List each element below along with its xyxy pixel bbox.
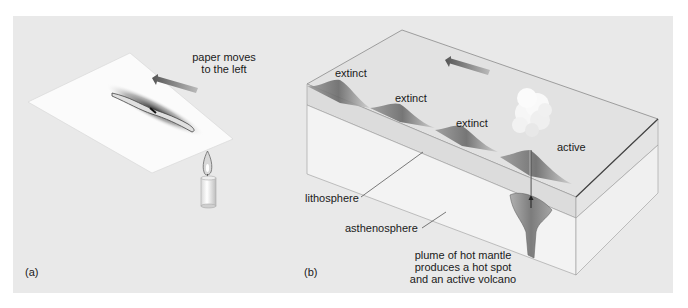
paper-moves-caption: paper moves to the left: [169, 51, 279, 75]
diagram-art: [0, 0, 688, 308]
caption-line: produces a hot spot: [408, 261, 518, 273]
extinct-volcano-label-1: extinct: [335, 67, 367, 79]
caption-line: plume of hot mantle: [408, 249, 518, 261]
asthenosphere-label: asthenosphere: [345, 222, 418, 234]
panel-a-label: (a): [25, 266, 38, 278]
panel-b-label: (b): [304, 266, 317, 278]
active-volcano-label: active: [557, 141, 586, 153]
plume-caption: plume of hot mantle produces a hot spot …: [408, 249, 518, 285]
caption-line: to the left: [169, 63, 279, 75]
extinct-volcano-label-2: extinct: [395, 92, 427, 104]
candle-icon: [201, 151, 216, 208]
caption-line: and an active volcano: [408, 273, 518, 285]
caption-line: paper moves: [169, 51, 279, 63]
lithosphere-label: lithosphere: [305, 192, 359, 204]
extinct-volcano-label-3: extinct: [456, 117, 488, 129]
